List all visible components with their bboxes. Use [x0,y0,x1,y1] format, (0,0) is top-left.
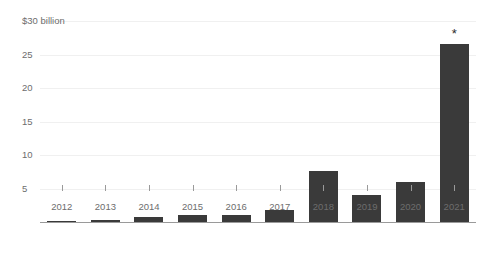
y-axis-tick-label: 15 [22,117,33,127]
y-axis-tick-label: 25 [22,50,33,60]
x-axis-label-2016: 2016 [214,201,258,212]
bar-2016 [222,215,251,222]
x-axis-label-2018: 2018 [302,201,346,212]
x-axis-tick [454,185,455,191]
y-axis-tick-label: 5 [22,184,27,194]
bar-group: 2019 [345,20,389,222]
x-axis-label-2015: 2015 [171,201,215,212]
bar-group: 2012 [40,20,84,222]
y-axis-tick-label: 10 [22,150,33,160]
bar-group: 2016 [214,20,258,222]
bar-group: 2020 [389,20,433,222]
bar-chart: 510152025$30 billion 2012201320142015201… [0,0,486,259]
x-axis-label-2014: 2014 [127,201,171,212]
x-axis-tick [367,185,368,191]
x-axis-tick [236,185,237,191]
x-axis-label-2012: 2012 [40,201,84,212]
bar-group: 2015 [171,20,215,222]
bar-group: *2021 [432,20,476,222]
x-axis-tick [411,185,412,191]
bar-2015 [178,215,207,222]
x-axis-line [40,222,476,223]
x-axis-tick [62,185,63,191]
x-axis-label-2017: 2017 [258,201,302,212]
bar-2021 [440,44,469,222]
x-axis-tick [149,185,150,191]
bar-group: 2018 [302,20,346,222]
bar-group: 2013 [84,20,128,222]
bar-group: 2014 [127,20,171,222]
bar-2018 [309,171,338,222]
bars-layer: 201220132014201520162017201820192020*202… [40,0,476,259]
x-axis-tick [280,185,281,191]
x-axis-label-2021: 2021 [432,201,476,212]
y-axis-tick-label: 20 [22,83,33,93]
x-axis-label-2013: 2013 [84,201,128,212]
x-axis-label-2020: 2020 [389,201,433,212]
x-axis-label-2019: 2019 [345,201,389,212]
x-axis-tick [105,185,106,191]
x-axis-tick [323,185,324,191]
asterisk-annotation: * [440,27,469,40]
bar-group: 2017 [258,20,302,222]
x-axis-tick [193,185,194,191]
